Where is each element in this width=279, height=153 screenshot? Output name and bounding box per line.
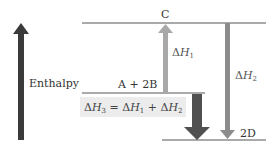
delta-h2-label: ΔH2 (235, 70, 257, 85)
delta-symbol: Δ (84, 101, 92, 114)
delta-symbol: Δ (235, 69, 243, 82)
subscript: 2 (253, 75, 257, 83)
level-label-A2B: A + 2B (118, 79, 157, 90)
delta-symbol: Δ (172, 46, 180, 59)
level-label-2D: 2D (240, 128, 256, 139)
enthalpy-diagram: Enthalpy C A + 2B 2D ΔH1 ΔH2 ΔH3 = ΔH1 +… (0, 0, 279, 153)
subscript: 2 (178, 107, 182, 115)
h-symbol: H (92, 101, 102, 114)
h-symbol: H (243, 69, 253, 82)
delta-h3-arrow-icon (184, 94, 210, 140)
subscript: 1 (190, 52, 194, 60)
delta-h2-arrow-icon (220, 23, 235, 139)
enthalpy-axis-label: Enthalpy (29, 78, 79, 89)
equation-box: ΔH3 = ΔH1 + ΔH2 (80, 97, 186, 117)
equals-sign: = (106, 101, 122, 114)
delta-h1-label: ΔH1 (172, 47, 194, 62)
level-label-C: C (161, 9, 169, 20)
enthalpy-axis-arrow-icon (13, 23, 29, 140)
delta-h1-arrow-icon (158, 24, 173, 93)
h-symbol: H (130, 101, 140, 114)
delta-symbol: Δ (122, 101, 130, 114)
hess-law-equation: ΔH3 = ΔH1 + ΔH2 (84, 102, 182, 117)
h-symbol: H (168, 101, 178, 114)
plus-sign: + (144, 101, 160, 114)
h-symbol: H (180, 46, 190, 59)
